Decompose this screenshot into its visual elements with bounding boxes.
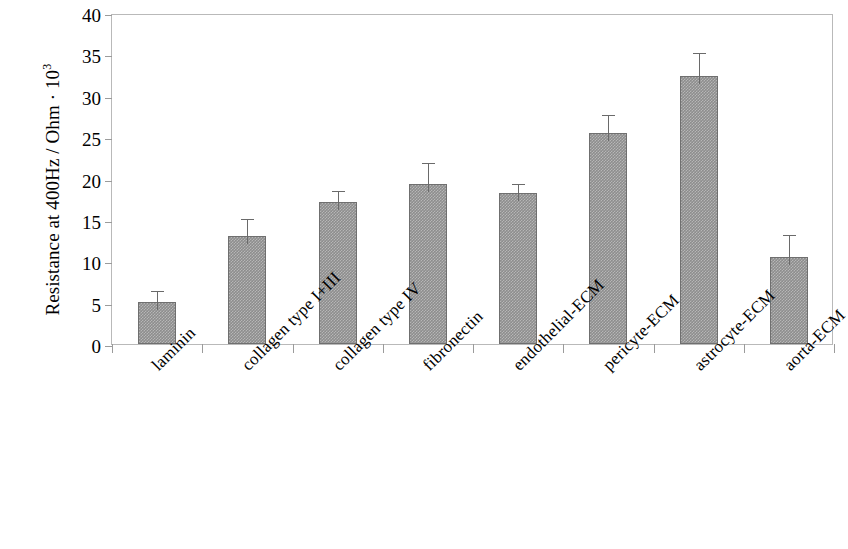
x-axis-tick-label: fibronectin [419, 307, 487, 375]
x-axis-tick-label: collagen type IV [329, 279, 426, 376]
chart-figure: Resistance at 400Hz / Ohm · 103 05101520… [0, 0, 848, 549]
x-axis-labels: laminincollagen type I+IIIcollagen type … [0, 0, 848, 549]
x-axis-tick-label: endothelial-ECM [509, 275, 609, 375]
x-axis-tick-label: aorta-ECM [780, 306, 848, 375]
x-axis-tick-label: astrocyte-ECM [690, 286, 779, 375]
x-axis-tick-label: pericyte-ECM [599, 291, 684, 376]
x-axis-tick-label: laminin [148, 323, 200, 375]
